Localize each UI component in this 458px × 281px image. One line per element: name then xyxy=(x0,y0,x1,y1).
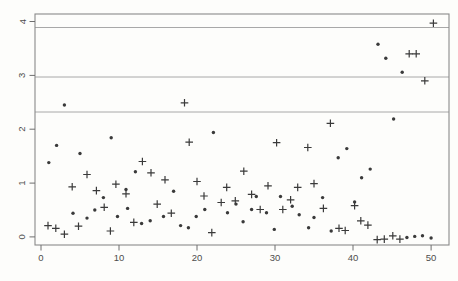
data-point-plus xyxy=(122,190,130,198)
x-axis-tick-label: 0 xyxy=(38,252,43,263)
data-point-plus xyxy=(208,229,216,237)
data-point-dot xyxy=(369,167,372,170)
data-point-plus xyxy=(396,235,404,243)
data-point-plus xyxy=(248,191,256,199)
data-point-plus xyxy=(412,50,420,58)
data-point-dot xyxy=(360,176,363,179)
data-point-plus xyxy=(93,187,101,195)
data-point-plus xyxy=(68,183,76,191)
data-point-plus xyxy=(139,158,147,166)
data-point-plus xyxy=(264,182,272,190)
data-point-dot xyxy=(162,215,165,218)
data-point-dot xyxy=(321,196,324,199)
data-point-plus xyxy=(100,204,108,212)
data-point-dot xyxy=(307,226,310,229)
x-axis-tick-label: 10 xyxy=(114,252,125,263)
data-point-dot xyxy=(312,216,315,219)
data-point-plus xyxy=(320,205,328,213)
data-point-plus xyxy=(153,200,161,208)
data-point-dot xyxy=(273,228,276,231)
data-point-plus xyxy=(405,50,413,58)
data-point-dot xyxy=(250,208,253,211)
plot-box xyxy=(35,14,449,245)
data-point-plus xyxy=(287,196,295,204)
data-point-dot xyxy=(330,229,333,232)
data-point-dot xyxy=(116,215,119,218)
data-point-plus xyxy=(310,180,318,188)
y-axis-tick-label: 2 xyxy=(17,127,28,132)
data-point-dot xyxy=(47,161,50,164)
data-point-dot xyxy=(126,207,129,210)
data-point-dot xyxy=(195,215,198,218)
data-point-dot xyxy=(172,190,175,193)
data-point-dot xyxy=(298,213,301,216)
data-point-dot xyxy=(345,147,348,150)
data-point-plus xyxy=(357,217,365,225)
data-point-dot xyxy=(93,208,96,211)
data-point-dot xyxy=(110,136,113,139)
data-point-plus xyxy=(430,19,438,27)
data-point-plus xyxy=(327,120,335,128)
data-point-plus xyxy=(294,184,302,192)
x-axis-tick-label: 50 xyxy=(426,252,437,263)
data-point-dot xyxy=(421,234,424,237)
data-point-plus xyxy=(83,171,91,179)
data-point-plus xyxy=(44,222,52,230)
data-point-dot xyxy=(265,211,268,214)
data-point-dot xyxy=(392,117,395,120)
data-point-dot xyxy=(63,103,66,106)
data-point-plus xyxy=(61,230,69,238)
data-point-dot xyxy=(203,208,206,211)
data-point-dot xyxy=(102,196,105,199)
data-point-plus xyxy=(217,199,225,207)
data-point-dot xyxy=(291,205,294,208)
data-point-plus xyxy=(279,206,287,214)
data-point-plus xyxy=(351,202,359,210)
data-point-dot xyxy=(78,152,81,155)
data-point-plus xyxy=(304,144,312,152)
data-point-plus xyxy=(107,227,115,235)
x-axis-tick-label: 40 xyxy=(348,252,359,263)
data-point-dot xyxy=(337,156,340,159)
data-point-plus xyxy=(147,169,155,177)
data-point-plus xyxy=(181,99,189,107)
x-axis-tick-label: 20 xyxy=(192,252,203,263)
data-point-dot xyxy=(226,211,229,214)
data-point-plus xyxy=(75,222,83,230)
data-point-plus xyxy=(200,192,208,200)
data-point-dot xyxy=(55,144,58,147)
data-point-dot xyxy=(413,235,416,238)
data-point-dot xyxy=(279,195,282,198)
data-point-dot xyxy=(405,236,408,239)
data-point-plus xyxy=(52,225,60,233)
data-point-dot xyxy=(212,131,215,134)
data-point-dot xyxy=(429,236,432,239)
y-axis-tick-label: 1 xyxy=(17,180,28,185)
data-point-plus xyxy=(381,235,389,243)
data-point-plus xyxy=(112,180,120,188)
y-axis-tick-label: 3 xyxy=(17,73,28,78)
data-point-dot xyxy=(140,222,143,225)
scatter-plot: 0102030405001234 xyxy=(0,0,458,281)
data-point-plus xyxy=(389,232,397,240)
data-point-plus xyxy=(168,209,176,217)
data-point-dot xyxy=(401,71,404,74)
data-point-dot xyxy=(85,216,88,219)
data-point-dot xyxy=(255,195,258,198)
y-axis-tick-label: 4 xyxy=(17,19,28,24)
data-point-plus xyxy=(185,138,193,146)
data-point-dot xyxy=(241,220,244,223)
data-point-dot xyxy=(187,226,190,229)
scatter-plot-figure: 0102030405001234 xyxy=(0,0,458,281)
data-point-plus xyxy=(273,139,281,147)
data-point-plus xyxy=(232,197,240,205)
data-point-dot xyxy=(384,57,387,60)
data-point-plus xyxy=(223,184,231,192)
data-point-plus xyxy=(240,167,248,175)
data-point-plus xyxy=(364,221,372,229)
data-point-dot xyxy=(376,43,379,46)
data-point-dot xyxy=(149,219,152,222)
data-point-dot xyxy=(134,170,137,173)
data-point-plus xyxy=(421,77,429,85)
data-point-dot xyxy=(71,212,74,215)
